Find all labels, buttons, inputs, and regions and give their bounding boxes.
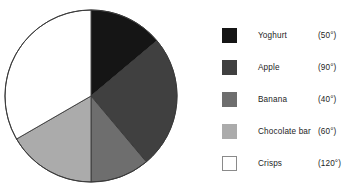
chart-legend: Yoghurt(50°)Apple(90°)Banana(40°)Chocola… [218, 0, 353, 192]
pie-chart [0, 0, 185, 192]
legend-swatch-apple [222, 60, 237, 75]
pie-chart-figure: Yoghurt(50°)Apple(90°)Banana(40°)Chocola… [0, 0, 353, 192]
legend-row-crisps[interactable]: Crisps(120°) [218, 156, 353, 174]
legend-row-banana[interactable]: Banana(40°) [218, 92, 353, 110]
legend-degrees-crisps: (120°) [318, 157, 341, 170]
legend-swatch-yoghurt [222, 28, 237, 43]
legend-degrees-yoghurt: (50°) [318, 29, 336, 42]
legend-swatch-crisps [222, 156, 237, 171]
legend-label-yoghurt: Yoghurt [258, 29, 287, 42]
legend-label-apple: Apple [258, 61, 280, 74]
legend-swatch-banana [222, 92, 237, 107]
pie-slice-group [5, 10, 177, 182]
legend-degrees-banana: (40°) [318, 93, 336, 106]
legend-degrees-apple: (90°) [318, 61, 336, 74]
pie-chart-svg [0, 0, 185, 192]
legend-swatch-chocolate-bar [222, 124, 237, 139]
legend-row-chocolate-bar[interactable]: Chocolate bar(60°) [218, 124, 353, 142]
legend-row-yoghurt[interactable]: Yoghurt(50°) [218, 28, 353, 46]
legend-row-apple[interactable]: Apple(90°) [218, 60, 353, 78]
legend-label-chocolate-bar: Chocolate bar [258, 125, 311, 138]
legend-label-banana: Banana [258, 93, 287, 106]
legend-label-crisps: Crisps [258, 157, 282, 170]
legend-degrees-chocolate-bar: (60°) [318, 125, 336, 138]
